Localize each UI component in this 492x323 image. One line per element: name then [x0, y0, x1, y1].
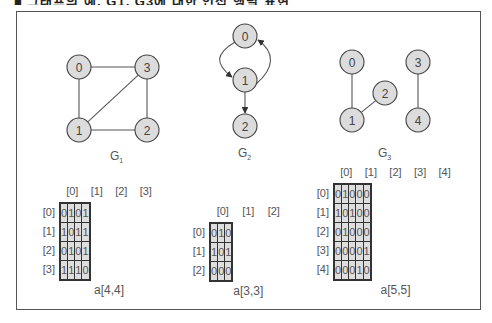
matrix-row: 00010: [334, 261, 371, 281]
row-header: [1]: [33, 222, 55, 241]
matrix-cell: 0: [349, 261, 356, 281]
matrix-row: 0101: [60, 242, 90, 261]
edge-g2-1-0: [256, 40, 271, 84]
node-g1-2: 2: [135, 118, 159, 142]
column-header: [1]: [236, 205, 262, 217]
matrix-cell: 0: [218, 243, 225, 262]
matrix-grid: 0100010100010000000100010: [333, 183, 372, 281]
matrix-cell: 0: [349, 242, 356, 261]
svg-text:4: 4: [415, 114, 422, 128]
row-header: [3]: [33, 260, 55, 279]
row-header: [2]: [33, 241, 55, 260]
svg-text:1: 1: [76, 124, 83, 138]
matrix-cell: 0: [342, 261, 349, 281]
edge-g2-0-1: [220, 42, 235, 77]
matrix-cell: 1: [349, 204, 356, 223]
matrix-cell: 0: [342, 242, 349, 261]
graph-label-g3: G3: [378, 146, 391, 161]
matrix-cell: 0: [356, 184, 363, 204]
matrix-cell: 1: [60, 223, 68, 242]
matrix-label: a[5,5]: [333, 283, 458, 297]
node-g1-1: 1: [67, 118, 91, 142]
edge-g1-1-3: [88, 75, 138, 122]
matrix-row-headers: [0][1][2][3]: [33, 203, 55, 279]
column-header: [2]: [383, 166, 408, 178]
matrix-label: a[3,3]: [209, 284, 288, 298]
matrix-grid: 010101000: [209, 222, 233, 282]
matrix-cell: 0: [218, 262, 225, 282]
matrix-cell: 0: [60, 242, 68, 261]
column-header: [0]: [334, 166, 359, 178]
svg-text:2: 2: [382, 87, 389, 101]
matrix-row: 01000: [334, 184, 371, 204]
matrix-cell: 0: [210, 223, 218, 243]
matrix-cell: 0: [75, 242, 82, 261]
svg-text:2: 2: [144, 124, 151, 138]
matrix-row: 010: [210, 223, 232, 243]
nodes-layer: 012301201234: [67, 24, 430, 142]
matrix-cell: 1: [342, 223, 349, 242]
matrix-row: 1110: [60, 261, 90, 281]
row-header: [0]: [33, 203, 55, 222]
column-header: [4]: [432, 166, 457, 178]
column-header: [1]: [359, 166, 384, 178]
node-g1-0: 0: [67, 55, 91, 79]
matrix-label: a[4,4]: [59, 283, 159, 297]
svg-text:0: 0: [76, 61, 83, 75]
matrix-cell: 1: [68, 261, 75, 281]
column-header: [1]: [85, 185, 110, 197]
matrix-cell: 0: [210, 262, 218, 282]
column-header: [2]: [261, 205, 287, 217]
svg-text:0: 0: [349, 56, 356, 70]
node-g3-1: 1: [340, 108, 364, 132]
matrix-cell: 1: [82, 242, 90, 261]
matrix-cell: 0: [349, 184, 356, 204]
matrix-cell: 1: [210, 243, 218, 262]
row-header: [3]: [307, 241, 329, 260]
node-g3-3: 3: [406, 50, 430, 74]
row-header: [1]: [183, 242, 205, 261]
matrix-row: 01000: [334, 223, 371, 242]
matrix-cell: 0: [334, 242, 342, 261]
matrix-cell: 1: [68, 242, 75, 261]
column-header: [2]: [109, 185, 134, 197]
matrix-row: 10100: [334, 204, 371, 223]
svg-text:3: 3: [144, 61, 151, 75]
node-g3-2: 2: [373, 81, 397, 105]
row-header: [2]: [307, 222, 329, 241]
matrix-cell: 0: [225, 262, 233, 282]
column-header: [0]: [210, 205, 236, 217]
matrix-cell: 1: [363, 242, 371, 261]
column-header: [0]: [60, 185, 85, 197]
matrix-row: 101: [210, 243, 232, 262]
matrix-cell: 1: [75, 261, 82, 281]
node-g2-1: 1: [233, 68, 257, 92]
row-header: [1]: [307, 203, 329, 222]
matrix-cell: 1: [334, 204, 342, 223]
node-g2-0: 0: [233, 24, 257, 48]
svg-text:1: 1: [242, 74, 249, 88]
matrix-row: 000: [210, 262, 232, 282]
node-g1-3: 3: [135, 55, 159, 79]
svg-text:2: 2: [242, 120, 249, 134]
matrix-column-headers: [0][1][2][3][4]: [334, 166, 457, 178]
matrix-cell: 0: [363, 184, 371, 204]
matrix-column-headers: [0][1][2]: [210, 205, 287, 217]
matrix-cell: 1: [342, 184, 349, 204]
matrix-cell: 0: [60, 203, 68, 223]
graph-label-g1: G1: [110, 149, 123, 164]
matrix-cell: 0: [75, 203, 82, 223]
matrix-cell: 0: [334, 184, 342, 204]
row-header: [2]: [183, 261, 205, 280]
matrix-cell: 0: [356, 242, 363, 261]
matrix-row-headers: [0][1][2]: [183, 223, 205, 280]
row-header: [0]: [307, 184, 329, 203]
matrix-grid: 0101101101011110: [59, 202, 91, 281]
matrix-cell: 0: [363, 204, 371, 223]
row-header: [4]: [307, 260, 329, 279]
graph-labels: G1G2G3: [110, 146, 391, 164]
matrix-cell: 1: [82, 223, 90, 242]
matrix-cell: 1: [82, 203, 90, 223]
svg-text:1: 1: [349, 114, 356, 128]
matrix-cell: 0: [82, 261, 90, 281]
